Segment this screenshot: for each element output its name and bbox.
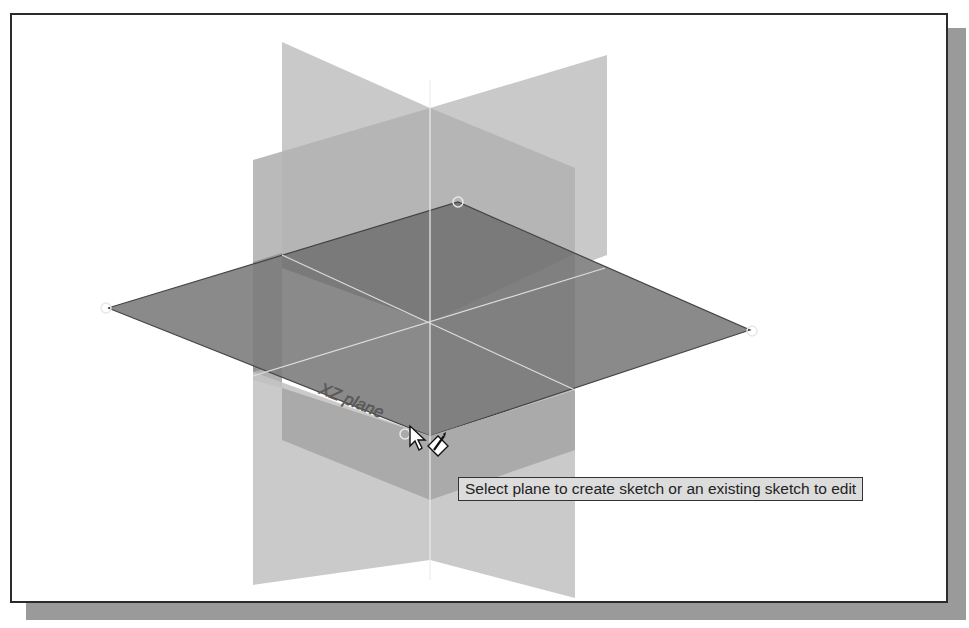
graphics-viewport[interactable]: XZ plane	[0, 0, 969, 628]
tooltip: Select plane to create sketch or an exis…	[458, 477, 863, 501]
arrow-with-sketch-pencil-icon	[408, 424, 458, 464]
